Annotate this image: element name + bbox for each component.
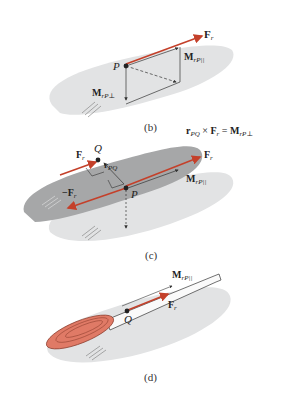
panel-c: rPQ × Fr = MrP⊥ Q P Fr −Fr Fr rPQ MrP|| … bbox=[24, 125, 253, 262]
point-q-label: Q bbox=[94, 142, 102, 154]
point-p-label: P bbox=[112, 60, 120, 72]
plane-b bbox=[49, 45, 233, 114]
point-p-label: P bbox=[130, 188, 138, 200]
point-q-c bbox=[96, 158, 101, 163]
panel-d: Q Fr MrP|| (d) bbox=[43, 269, 231, 384]
point-q-label: Q bbox=[124, 313, 132, 325]
caption-c: (c) bbox=[145, 249, 158, 262]
force-label-b: Fr bbox=[204, 28, 214, 42]
diagram-canvas: P Fr MrP|| MrP⊥ (b) rPQ × Fr = MrP⊥ Q bbox=[0, 0, 288, 403]
caption-b: (b) bbox=[144, 121, 157, 134]
force-right-label: Fr bbox=[204, 149, 213, 162]
point-p-b bbox=[124, 64, 129, 69]
caption-d: (d) bbox=[144, 371, 157, 384]
force-q-label: Fr bbox=[76, 149, 85, 162]
moment-parallel-label-d: MrP|| bbox=[172, 269, 192, 282]
point-p-c bbox=[124, 186, 129, 191]
panel-b: P Fr MrP|| MrP⊥ (b) bbox=[49, 28, 233, 134]
equation-label: rPQ × Fr = MrP⊥ bbox=[186, 125, 253, 138]
